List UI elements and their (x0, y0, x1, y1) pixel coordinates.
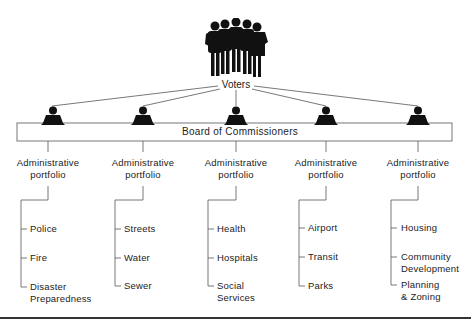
portfolio-header-2: Administrativeportfolio (112, 157, 174, 181)
portfolio-header-5: Administrativeportfolio (387, 157, 449, 181)
list-item: Transit (308, 251, 338, 263)
board-label: Board of Commissioners (182, 126, 298, 137)
list-item: Parks (308, 280, 333, 292)
list-item: Housing (401, 222, 437, 234)
list-item: Sewer (124, 280, 152, 292)
list-item: DisasterPreparedness (30, 281, 92, 305)
list-item: SocialServices (217, 280, 255, 304)
list-item: Health (217, 223, 246, 235)
list-item: Planning& Zoning (401, 279, 441, 303)
commissioner-icon (406, 106, 430, 125)
commissioner-icon (314, 106, 338, 125)
list-item: Streets (124, 223, 156, 235)
portfolio-header-3: Administrativeportfolio (205, 157, 267, 181)
voters-group-icon (203, 18, 269, 80)
portfolio-header-1: Administrativeportfolio (17, 157, 79, 181)
voters-label: Voters (220, 79, 252, 90)
list-item: Police (30, 223, 57, 235)
list-item: CommunityDevelopment (401, 251, 459, 275)
list-item: Hospitals (217, 252, 258, 264)
list-item: Water (124, 252, 150, 264)
commissioner-icon (131, 106, 155, 125)
portfolio-header-4: Administrativeportfolio (295, 157, 357, 181)
list-item: Airport (308, 222, 337, 234)
commissioner-icon (224, 106, 248, 125)
commissioner-icon (41, 106, 65, 125)
list-item: Fire (30, 252, 47, 264)
